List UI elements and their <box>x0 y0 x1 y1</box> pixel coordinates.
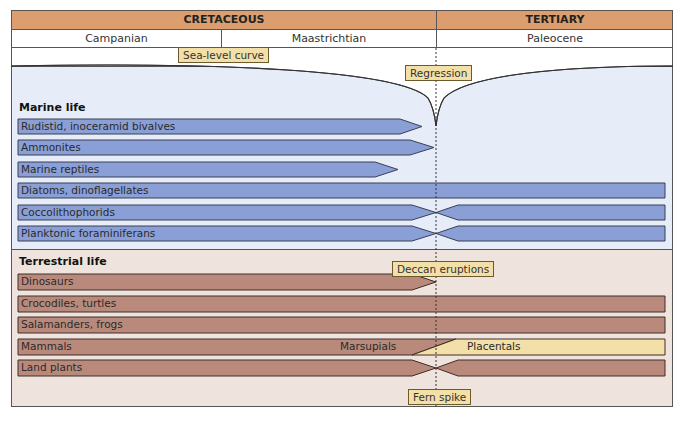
label-diatoms: Diatoms, dinoflagellates <box>21 183 149 198</box>
tag-sea-level-curve: Sea-level curve <box>178 47 269 63</box>
label-ammonites: Ammonites <box>21 140 81 155</box>
label-rudistid: Rudistid, inoceramid bivalves <box>21 119 175 134</box>
tag-regression: Regression <box>405 65 472 81</box>
tag-deccan-eruptions: Deccan eruptions <box>392 261 494 277</box>
kt-extinction-diagram: CRETACEOUS TERTIARY Campanian Maastricht… <box>0 0 681 421</box>
bar-mammals-placentals <box>412 339 665 355</box>
label-crocodiles: Crocodiles, turtles <box>21 296 116 311</box>
label-placentals: Placentals <box>467 339 521 354</box>
bar-dinosaurs <box>18 274 436 290</box>
label-salamanders: Salamanders, frogs <box>21 317 123 332</box>
label-mammals: Mammals <box>21 339 72 354</box>
bar-land-plants-right <box>436 360 665 376</box>
label-coccolithophorids: Coccolithophorids <box>21 205 115 220</box>
bar-planktonic-right <box>436 226 665 241</box>
label-land-plants: Land plants <box>21 360 82 375</box>
tag-fern-spike: Fern spike <box>408 389 471 405</box>
bar-coccolithophorids-right <box>436 205 665 220</box>
marine-bars <box>18 119 665 241</box>
label-dinosaurs: Dinosaurs <box>21 274 73 289</box>
label-marine-reptiles: Marine reptiles <box>21 162 99 177</box>
sea-level-curve <box>11 65 673 126</box>
label-marsupials: Marsupials <box>340 339 396 354</box>
label-planktonic: Planktonic foraminiferans <box>21 226 155 241</box>
